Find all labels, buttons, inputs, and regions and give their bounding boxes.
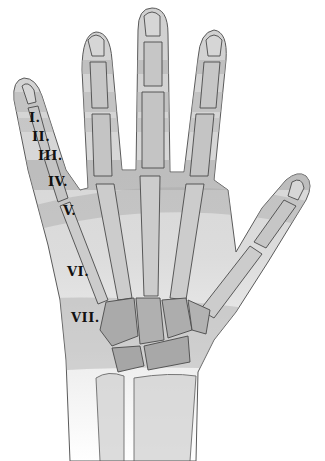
zone-label-iv: IV. bbox=[48, 175, 68, 188]
zone-label-vi: VI. bbox=[67, 265, 89, 278]
zone-label-i: I. bbox=[29, 111, 41, 124]
zone-label-ii: II. bbox=[32, 130, 50, 143]
hand-zone-diagram: I. II. III. IV. V. VI. VII. bbox=[0, 0, 325, 461]
zone-label-vii: VII. bbox=[71, 311, 100, 324]
zone-label-v: V. bbox=[63, 204, 76, 217]
zone-label-iii: III. bbox=[38, 149, 63, 162]
hand-skeleton-illustration bbox=[0, 0, 325, 461]
